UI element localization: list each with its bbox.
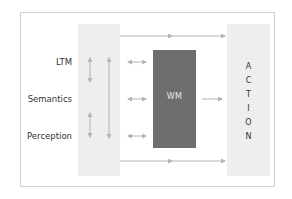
arrows-layer	[0, 0, 292, 199]
